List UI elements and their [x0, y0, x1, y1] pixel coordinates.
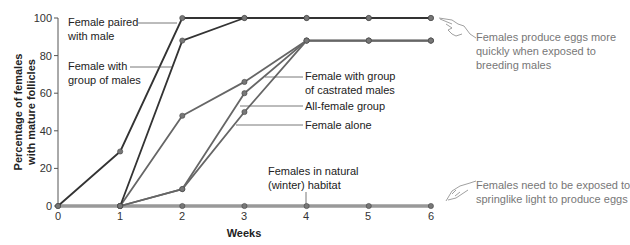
- x-ticks: 0 1 2 3 4 5 6: [55, 210, 434, 222]
- annotation-1-line1: Females produce eggs more: [476, 31, 616, 43]
- data-point: [118, 149, 123, 154]
- label-group-of-males-l1: Female with: [68, 60, 127, 72]
- y-axis-title-line2: with mature follicles: [25, 59, 37, 166]
- x-axis-title: Weeks: [227, 227, 262, 239]
- label-female-alone: Female alone: [305, 119, 372, 131]
- series-females-in-natural-winter-habitat: [55, 203, 433, 208]
- annotation-springlike-light: Females need to be exposed to springlike…: [446, 179, 630, 205]
- label-castrated-males-l2: of castrated males: [305, 84, 395, 96]
- annotation-2-line2: springlike light to produce eggs: [476, 193, 628, 205]
- data-point: [366, 203, 371, 208]
- series-labels: Female paired with male Female with grou…: [67, 16, 396, 191]
- data-point: [180, 186, 185, 191]
- y-ticks: 0 20 40 60 80 100: [34, 12, 58, 212]
- data-point: [55, 203, 60, 208]
- data-point: [180, 15, 185, 20]
- label-castrated-males-l1: Female with group: [305, 70, 396, 82]
- x-tick-4: 4: [303, 210, 309, 222]
- data-point: [366, 15, 371, 20]
- data-point: [428, 38, 433, 43]
- y-tick-20: 20: [40, 162, 52, 174]
- label-paired-with-male-l2: with male: [67, 30, 114, 42]
- annotation-1-line2: quickly when exposed to: [476, 45, 596, 57]
- x-tick-1: 1: [117, 210, 123, 222]
- series-layer: [55, 15, 433, 208]
- y-axis-title-line1: Percentage of females: [12, 54, 24, 171]
- y-tick-100: 100: [34, 12, 52, 24]
- data-point: [180, 38, 185, 43]
- data-point: [180, 203, 185, 208]
- pointing-hand-icon: [446, 181, 476, 201]
- data-point: [366, 38, 371, 43]
- x-tick-2: 2: [179, 210, 185, 222]
- x-tick-0: 0: [55, 210, 61, 222]
- data-point: [428, 203, 433, 208]
- data-point: [304, 15, 309, 20]
- x-tick-6: 6: [428, 210, 434, 222]
- annotation-1-line3: breeding males: [476, 59, 552, 71]
- label-group-of-males-l2: group of males: [68, 74, 141, 86]
- data-point: [242, 79, 247, 84]
- data-point: [304, 203, 309, 208]
- label-natural-habitat-l2: (winter) habitat: [268, 179, 341, 191]
- data-point: [242, 109, 247, 114]
- label-all-female-group: All-female group: [305, 100, 385, 112]
- x-tick-3: 3: [241, 210, 247, 222]
- x-tick-5: 5: [365, 210, 371, 222]
- y-tick-0: 0: [46, 200, 52, 212]
- data-point: [242, 15, 247, 20]
- annotation-2-line1: Females need to be exposed to: [476, 179, 630, 191]
- data-point: [428, 15, 433, 20]
- label-natural-habitat-l1: Females in natural: [268, 165, 359, 177]
- y-tick-40: 40: [40, 125, 52, 137]
- pointing-hand-icon: [439, 18, 476, 38]
- data-point: [242, 203, 247, 208]
- data-point: [304, 38, 309, 43]
- y-tick-60: 60: [40, 87, 52, 99]
- label-paired-with-male-l1: Female paired: [68, 16, 138, 28]
- data-point: [180, 113, 185, 118]
- y-tick-80: 80: [40, 50, 52, 62]
- data-point: [242, 91, 247, 96]
- data-point: [118, 203, 123, 208]
- annotation-breeding-males: Females produce eggs more quickly when e…: [439, 18, 616, 71]
- line-chart: Percentage of females with mature follic…: [0, 0, 630, 245]
